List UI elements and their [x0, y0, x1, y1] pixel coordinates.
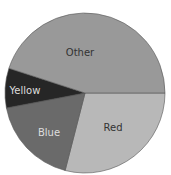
label-blue: Blue — [38, 127, 60, 138]
label-yellow: Yellow — [9, 85, 41, 96]
pie-chart: Red Blue Yellow Other — [0, 0, 171, 175]
label-other: Other — [66, 47, 95, 58]
label-red: Red — [104, 122, 123, 133]
